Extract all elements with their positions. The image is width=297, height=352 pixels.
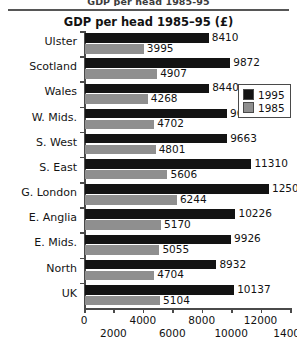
category-tick <box>80 283 84 285</box>
legend-swatch-icon <box>243 89 254 100</box>
bar-1995: 9649 <box>85 109 227 119</box>
bar-value-label: 5170 <box>164 218 191 231</box>
x-axis-tick-label: 2000 <box>100 327 127 339</box>
chart-row: S. East113105606 <box>84 157 291 182</box>
x-axis-tick <box>113 308 115 313</box>
bar-value-label: 9926 <box>234 232 261 245</box>
category-label: E. Anglia <box>0 211 77 224</box>
bar-1995: 9872 <box>85 58 230 68</box>
bar-value-label: 8440 <box>212 81 239 94</box>
category-tick <box>80 31 84 33</box>
bar-value-label: 4704 <box>157 268 184 281</box>
top-caption: GDP per head 1985-95 <box>0 0 297 6</box>
category-tick <box>80 207 84 209</box>
chart-row: E. Anglia102265170 <box>84 207 291 232</box>
bar-value-label: 8932 <box>219 258 246 271</box>
bar-value-label: 11310 <box>254 157 287 170</box>
legend-entry: 1985 <box>243 101 285 114</box>
x-axis-tick <box>231 308 233 313</box>
category-label: S. West <box>0 136 77 149</box>
bar-1995: 9663 <box>85 134 227 144</box>
x-axis-tick <box>261 308 263 313</box>
bar-1985: 6244 <box>85 195 177 205</box>
bar-value-label: 9663 <box>230 132 257 145</box>
category-label: UK <box>0 287 77 300</box>
chart-title: GDP per head 1985–95 (£) <box>0 15 297 29</box>
category-tick <box>80 182 84 184</box>
bar-1995: 10137 <box>85 285 234 295</box>
header-divider <box>8 9 289 11</box>
category-label: S. East <box>0 161 77 174</box>
category-tick <box>80 258 84 260</box>
bar-1985: 4268 <box>85 94 148 104</box>
x-axis-tick-label: 6000 <box>159 327 186 339</box>
bar-1985: 4907 <box>85 69 157 79</box>
legend-label: 1995 <box>258 89 285 101</box>
bar-value-label: 4907 <box>160 67 187 80</box>
x-axis-tick <box>202 308 204 313</box>
bar-value-label: 10226 <box>238 207 271 220</box>
category-tick <box>80 132 84 134</box>
bar-1985: 5606 <box>85 170 167 180</box>
category-label: North <box>0 262 77 275</box>
category-label: Wales <box>0 85 77 98</box>
bar-1995: 10226 <box>85 209 235 219</box>
x-axis-tick-label: 10000 <box>214 327 247 339</box>
category-label: Ulster <box>0 35 77 48</box>
chart-row: North89324704 <box>84 258 291 283</box>
chart-page: GDP per head 1985-95 GDP per head 1985–9… <box>0 0 297 352</box>
x-axis-tick-label: 0 <box>81 314 88 326</box>
category-label: G. London <box>0 186 77 199</box>
category-label: E. Mids. <box>0 236 77 249</box>
legend-label: 1985 <box>258 102 285 114</box>
bar-value-label: 4702 <box>157 117 184 130</box>
bar-1985: 4704 <box>85 271 154 281</box>
x-axis-tick <box>143 308 145 313</box>
bar-1985: 5170 <box>85 220 161 230</box>
chart-row: E. Mids.99265055 <box>84 232 291 257</box>
bar-1985: 5104 <box>85 296 160 306</box>
legend-entry: 1995 <box>243 88 285 101</box>
bar-value-label: 6244 <box>180 193 207 206</box>
chart-row: Ulster84103995 <box>84 31 291 56</box>
category-tick <box>80 107 84 109</box>
chart-legend: 19951985 <box>238 84 291 118</box>
bar-1995: 12503 <box>85 184 269 194</box>
bar-1995: 8932 <box>85 260 216 270</box>
category-tick <box>80 157 84 159</box>
bar-value-label: 5104 <box>163 294 190 307</box>
chart-row: Scotland98724907 <box>84 56 291 81</box>
legend-swatch-icon <box>243 102 254 113</box>
x-axis-tick-label: 14000 <box>273 327 297 339</box>
x-axis-tick <box>290 308 292 313</box>
bar-value-label: 5606 <box>170 168 197 181</box>
bar-1995: 11310 <box>85 159 251 169</box>
bar-value-label: 3995 <box>147 42 174 55</box>
bar-value-label: 9872 <box>233 56 260 69</box>
plot-area: Ulster84103995Scotland98724907Wales84404… <box>84 31 291 308</box>
bar-1985: 3995 <box>85 44 144 54</box>
category-tick <box>80 81 84 83</box>
bar-value-label: 12503 <box>272 182 297 195</box>
category-tick <box>80 56 84 58</box>
category-label: W. Mids. <box>0 111 77 124</box>
bar-value-label: 5055 <box>162 243 189 256</box>
x-axis-tick-label: 4000 <box>129 314 156 326</box>
x-axis-tick <box>172 308 174 313</box>
chart-row: UK101375104 <box>84 283 291 308</box>
bar-1995: 9926 <box>85 235 231 245</box>
bar-value-label: 4801 <box>159 143 186 156</box>
x-axis-tick <box>84 308 86 313</box>
bar-value-label: 4268 <box>151 92 178 105</box>
bar-value-label: 10137 <box>237 283 270 296</box>
x-axis-tick-label: 12000 <box>244 314 277 326</box>
chart-row: S. West96634801 <box>84 132 291 157</box>
bar-value-label: 8410 <box>212 31 239 44</box>
bar-1985: 5055 <box>85 245 159 255</box>
bar-1985: 4702 <box>85 120 154 130</box>
chart-row: G. London125036244 <box>84 182 291 207</box>
bar-1995: 8440 <box>85 84 209 94</box>
x-axis-tick-label: 8000 <box>188 314 215 326</box>
category-tick <box>80 232 84 234</box>
bar-1985: 4801 <box>85 145 156 155</box>
